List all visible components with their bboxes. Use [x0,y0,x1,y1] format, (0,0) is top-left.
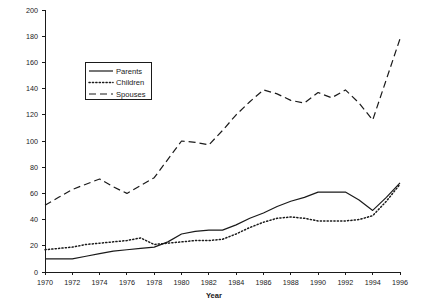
series-line-parents [45,183,400,259]
series-line-children [45,184,400,250]
x-tick-label: 1970 [37,278,53,287]
chart-legend: ParentsChildrenSpouses [85,62,151,99]
x-axis: 1970197219741976197819801982198419861988… [37,272,408,287]
legend-label-spouses: Spouses [116,90,146,99]
line-chart: 020406080100120140160180200 197019721974… [0,0,428,307]
legend-label-parents: Parents [116,67,142,76]
y-tick-label: 80 [30,163,38,172]
x-tick-label: 1986 [255,278,271,287]
y-tick-label: 100 [26,137,38,146]
y-tick-label: 20 [30,241,38,250]
x-tick-label: 1990 [310,278,326,287]
y-tick-label: 40 [30,215,38,224]
x-tick-label: 1974 [92,278,108,287]
y-tick-label: 160 [26,58,38,67]
chart-canvas: 020406080100120140160180200 197019721974… [0,0,428,307]
x-tick-label: 1996 [392,278,408,287]
x-tick-label: 1980 [174,278,190,287]
y-tick-label: 180 [26,32,38,41]
x-tick-label: 1976 [119,278,135,287]
y-tick-label: 140 [26,84,38,93]
y-axis: 020406080100120140160180200 [26,6,45,277]
x-tick-label: 1978 [146,278,162,287]
x-axis-title: Year [206,291,222,300]
legend-label-children: Children [116,78,144,87]
y-tick-label: 60 [30,189,38,198]
y-tick-label: 200 [26,6,38,15]
y-tick-label: 0 [34,268,38,277]
x-tick-label: 1992 [337,278,353,287]
x-tick-label: 1994 [365,278,381,287]
x-tick-label: 1972 [64,278,80,287]
y-tick-label: 120 [26,110,38,119]
x-tick-label: 1982 [201,278,217,287]
x-tick-label: 1988 [283,278,299,287]
x-tick-label: 1984 [228,278,244,287]
